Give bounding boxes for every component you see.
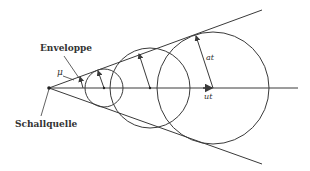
envelope-lower-line <box>49 88 262 164</box>
wave-radius-label: at <box>206 53 215 62</box>
center-dot-medium <box>149 87 151 89</box>
center-dot-small <box>103 87 105 89</box>
displacement-label: ut <box>204 92 213 101</box>
radius-arrow-medium <box>139 54 150 88</box>
radius-arrow-large <box>196 36 213 88</box>
mach-angle-label: μ <box>57 67 63 77</box>
radius-arrow-tiny <box>80 77 83 88</box>
source-leader-line <box>41 89 49 116</box>
envelope-leader-line <box>64 56 79 78</box>
source-label: Schallquelle <box>15 119 78 129</box>
mu-leader-line <box>63 76 74 80</box>
envelope-label: Enveloppe <box>40 43 92 53</box>
radius-arrow-small <box>98 71 104 88</box>
mach-cone-diagram: Enveloppe Schallquelle μ at ut <box>0 0 310 171</box>
